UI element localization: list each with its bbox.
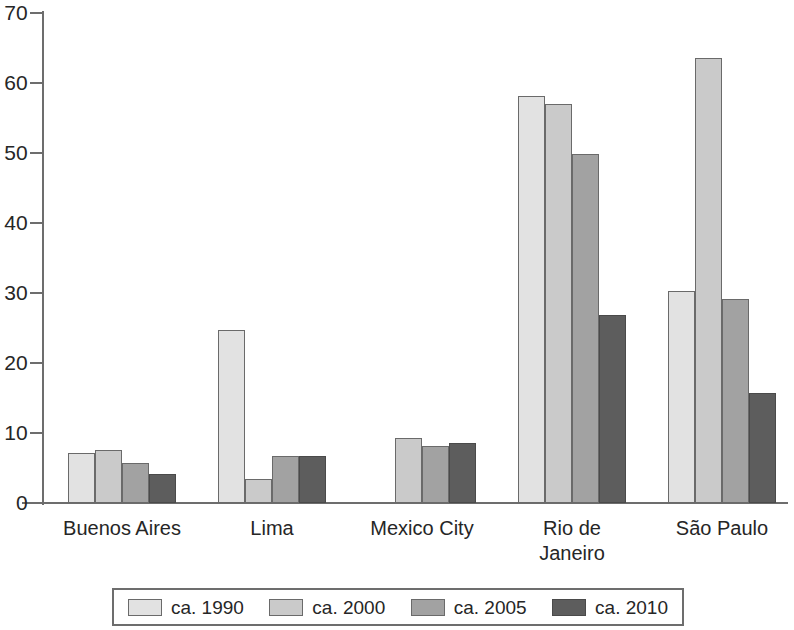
legend-item[interactable]: ca. 2010 xyxy=(552,598,668,617)
bar[interactable] xyxy=(395,438,422,503)
x-axis-category-label: Lima xyxy=(187,516,357,541)
legend-swatch-icon xyxy=(269,599,303,616)
y-axis-tick xyxy=(30,222,43,224)
y-axis-tick-label: 20 xyxy=(0,352,28,373)
bar[interactable] xyxy=(572,154,599,503)
bar[interactable] xyxy=(449,443,476,503)
bar[interactable] xyxy=(722,299,749,503)
legend: ca. 1990ca. 2000ca. 2005ca. 2010 xyxy=(112,588,684,626)
y-axis-tick-label-text: 20 xyxy=(0,352,28,373)
x-axis-category-label: Buenos Aires xyxy=(37,516,207,541)
y-axis-tick xyxy=(30,152,43,154)
y-axis-tick xyxy=(30,362,43,364)
legend-item[interactable]: ca. 2005 xyxy=(411,598,527,617)
y-axis-tick-label-text: 70 xyxy=(0,2,28,23)
bar[interactable] xyxy=(272,456,299,503)
bar[interactable] xyxy=(422,446,449,503)
y-axis-tick-label: 10 xyxy=(0,422,28,443)
y-axis-tick-label: 50 xyxy=(0,142,28,163)
y-axis-tick xyxy=(30,82,43,84)
y-axis-tick-label-text: 50 xyxy=(0,142,28,163)
bar-group xyxy=(218,13,326,503)
bar[interactable] xyxy=(245,479,272,503)
legend-item-label: ca. 2000 xyxy=(312,598,385,617)
bar[interactable] xyxy=(218,330,245,503)
bar-group xyxy=(68,13,176,503)
legend-item-label: ca. 2010 xyxy=(595,598,668,617)
bar[interactable] xyxy=(518,96,545,503)
y-axis-tick-label: 30 xyxy=(0,282,28,303)
legend-item[interactable]: ca. 1990 xyxy=(128,598,244,617)
bar-group xyxy=(368,13,476,503)
bar[interactable] xyxy=(749,393,776,503)
y-axis-tick-label-text: 0 xyxy=(0,492,28,513)
legend-swatch-icon xyxy=(411,599,445,616)
bar[interactable] xyxy=(299,456,326,503)
bar-group xyxy=(668,13,776,503)
bar-chart: 010203040506070 Buenos AiresLimaMexico C… xyxy=(0,0,794,630)
plot-area xyxy=(43,13,791,503)
y-axis-tick-label-text: 30 xyxy=(0,282,28,303)
legend-item[interactable]: ca. 2000 xyxy=(269,598,385,617)
x-axis-category-label: São Paulo xyxy=(637,516,794,541)
y-axis-tick xyxy=(30,432,43,434)
legend-item-label: ca. 1990 xyxy=(171,598,244,617)
legend-swatch-icon xyxy=(128,599,162,616)
y-axis-tick-label-text: 40 xyxy=(0,212,28,233)
legend-item-label: ca. 2005 xyxy=(454,598,527,617)
y-axis-tick-label-text: 10 xyxy=(0,422,28,443)
x-axis-category-label: Rio de Janeiro xyxy=(487,516,657,566)
y-axis-tick-label: 0 xyxy=(0,492,28,513)
y-axis-tick-label: 60 xyxy=(0,72,28,93)
legend-swatch-icon xyxy=(552,599,586,616)
x-axis-category-label: Mexico City xyxy=(337,516,507,541)
bar[interactable] xyxy=(668,291,695,503)
bar-group xyxy=(518,13,626,503)
bar[interactable] xyxy=(545,104,572,503)
y-axis-tick xyxy=(30,12,43,14)
bar[interactable] xyxy=(68,453,95,503)
bar[interactable] xyxy=(695,58,722,503)
bar[interactable] xyxy=(599,315,626,503)
bar[interactable] xyxy=(122,463,149,503)
y-axis-tick xyxy=(30,502,43,504)
y-axis-tick-label: 70 xyxy=(0,2,28,23)
y-axis-tick-label-text: 60 xyxy=(0,72,28,93)
bar[interactable] xyxy=(95,450,122,503)
bar[interactable] xyxy=(149,474,176,503)
y-axis-tick xyxy=(30,292,43,294)
y-axis-tick-label: 40 xyxy=(0,212,28,233)
